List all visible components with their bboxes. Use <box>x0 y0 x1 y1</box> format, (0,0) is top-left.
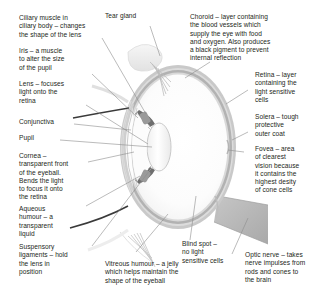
label-blind-spot: Blind spot – no light sensitive cells <box>182 240 242 265</box>
label-choroid: Choroid – layer containing the blood ves… <box>190 13 314 63</box>
label-optic-nerve: Optic nerve – takes nerve impulses from … <box>245 251 329 284</box>
label-pupil: Pupil <box>19 134 79 142</box>
label-retina: Retina – layer containing the light sens… <box>255 71 327 104</box>
eye-diagram-canvas: Ciliary muscle in ciliary body – changes… <box>0 0 331 303</box>
label-sclera: Solera – tough protective outer coat <box>255 113 327 138</box>
label-suspensory-ligaments: Suspensory ligaments – hold the lens in … <box>19 243 103 276</box>
label-conjunctiva: Conjunctiva <box>19 118 99 126</box>
label-aqueous-humour: Aqueous humour – a transparent liquid <box>19 205 89 238</box>
label-tear-gland: Tear gland <box>105 12 167 20</box>
label-lens: Lens – focuses light onto the retina <box>19 80 101 105</box>
label-fovea: Fovea – area of clearest vision because … <box>255 145 327 195</box>
optic-nerve-shape <box>214 196 268 244</box>
label-iris: Iris – a muscle to alter the size of the… <box>19 47 107 72</box>
label-cornea: Cornea – transparent front of the eyebal… <box>19 152 105 202</box>
